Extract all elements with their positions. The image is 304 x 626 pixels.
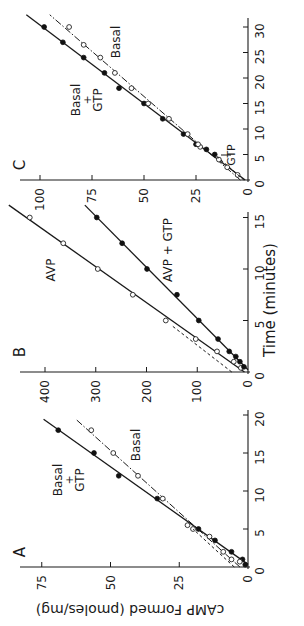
series-line-basal <box>76 419 240 567</box>
y-tick-label: 0 <box>241 575 255 583</box>
data-point <box>120 241 125 246</box>
x-tick-label: 15 <box>253 214 267 229</box>
data-point <box>175 292 180 297</box>
data-point <box>242 364 247 369</box>
figure: 0255075100051015202530CBasal+GTPBasalGTP… <box>0 0 304 626</box>
data-point <box>185 523 190 528</box>
y-tick-label: 0 <box>241 188 255 196</box>
data-point <box>42 25 47 30</box>
data-point <box>221 549 226 554</box>
data-point <box>213 538 218 543</box>
y-axis-label: cAMP Formed (pmoles/mg) <box>36 602 225 618</box>
y-tick-label: 100 <box>190 380 204 403</box>
data-point <box>112 71 117 76</box>
series-label: AVP + GTP <box>161 218 175 282</box>
data-point <box>196 142 201 147</box>
data-point <box>196 318 201 323</box>
series-label: Basal <box>109 26 123 59</box>
data-point <box>227 349 232 354</box>
data-point <box>237 359 242 364</box>
x-tick-label: 0 <box>253 372 267 380</box>
panel-letter: C <box>11 160 29 170</box>
data-point <box>130 292 135 297</box>
x-tick-label: 10 <box>253 487 267 502</box>
data-point <box>215 349 220 354</box>
data-point <box>185 132 190 137</box>
data-point <box>193 337 198 342</box>
data-point <box>102 71 107 76</box>
data-point <box>95 267 100 272</box>
panel-letter: B <box>11 347 29 357</box>
data-point <box>233 354 238 359</box>
data-point <box>243 562 248 567</box>
panel-b: 0100200300400051015BAVPAVP + GTP <box>9 205 267 403</box>
series-line-avp <box>9 205 245 372</box>
series-label: AVP <box>44 259 58 282</box>
y-tick-label: 75 <box>85 188 99 203</box>
series-label: GTP <box>91 88 105 111</box>
panel-a: 025507505101520ABasal+GTPBasal <box>11 410 267 590</box>
series-label: GTP <box>73 468 87 491</box>
x-tick-label: 25 <box>253 49 267 64</box>
x-tick-label: 30 <box>253 23 267 38</box>
x-tick-label: 15 <box>253 449 267 464</box>
data-point <box>207 534 212 539</box>
data-point <box>60 40 65 45</box>
data-point <box>81 55 86 60</box>
data-point <box>160 496 165 501</box>
series-line-initial-rate-extrapolation <box>172 326 232 372</box>
data-point <box>94 215 99 220</box>
panel-c: 0255075100051015202530CBasal+GTPBasalGTP <box>11 15 267 211</box>
data-point <box>167 116 172 121</box>
data-point <box>229 549 234 554</box>
data-point <box>116 473 121 478</box>
y-tick-label: 25 <box>189 188 203 203</box>
data-point <box>129 86 134 91</box>
x-tick-label: 15 <box>253 100 267 115</box>
data-point <box>111 451 116 456</box>
x-axis-label: Time (minutes) <box>261 243 279 358</box>
x-tick-label: 0 <box>253 180 267 188</box>
panel-letter: A <box>11 546 29 557</box>
y-tick-label: 0 <box>241 380 255 388</box>
x-tick-label: 10 <box>253 125 267 140</box>
data-point <box>163 318 168 323</box>
data-point <box>160 116 165 121</box>
data-point <box>136 473 141 478</box>
data-point <box>145 267 150 272</box>
data-point <box>89 428 94 433</box>
y-tick-label: 200 <box>140 380 154 403</box>
data-point <box>155 496 160 501</box>
data-point <box>61 241 66 246</box>
data-point <box>92 451 97 456</box>
data-point <box>146 101 151 106</box>
data-point <box>98 55 103 60</box>
x-tick-label: 0 <box>253 567 267 575</box>
data-point <box>229 557 234 562</box>
y-tick-label: 50 <box>104 575 118 590</box>
x-tick-label: 20 <box>253 74 267 89</box>
data-point <box>81 42 86 47</box>
x-tick-label: 20 <box>253 411 267 426</box>
y-tick-label: 400 <box>38 380 52 403</box>
data-point <box>67 25 72 30</box>
data-point <box>117 86 122 91</box>
y-tick-label: 25 <box>172 575 186 590</box>
data-point <box>56 428 61 433</box>
x-tick-label: 5 <box>253 155 267 163</box>
data-point <box>231 359 236 364</box>
data-point <box>216 337 221 342</box>
y-tick-label: 100 <box>33 188 47 211</box>
y-tick-label: 300 <box>89 380 103 403</box>
data-point <box>27 215 32 220</box>
y-tick-label: 50 <box>137 188 151 203</box>
y-tick-label: 75 <box>35 575 49 590</box>
data-point <box>237 559 242 564</box>
series-label: Basal <box>129 429 143 462</box>
x-tick-label: 5 <box>253 529 267 537</box>
series-line-initial-rate-extrapolation <box>193 529 234 567</box>
